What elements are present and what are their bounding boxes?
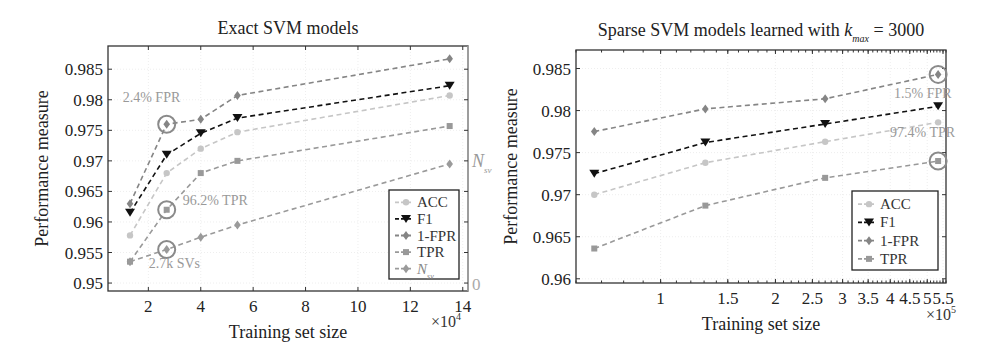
y-tick-label: 0.98: [541, 102, 571, 121]
series-line: [594, 74, 938, 131]
acc-marker: [446, 92, 452, 98]
legend-label: ACC: [417, 194, 448, 210]
series-line: [130, 59, 450, 204]
x-tick-label: 10: [349, 297, 366, 316]
fpr-marker: [702, 104, 709, 113]
x-tick-label: 1: [656, 289, 665, 308]
y-tick-label: 0.985: [65, 60, 103, 79]
annotation: 1.5% FPR: [894, 66, 952, 102]
x-tick-label: 3: [838, 289, 847, 308]
x-axis-label: Training set size: [702, 314, 820, 334]
fpr-marker: [163, 120, 170, 129]
y-tick-label: 0.98: [73, 91, 103, 110]
tpr-marker: [447, 123, 453, 129]
acc-marker: [198, 145, 204, 151]
f1-marker: [589, 170, 599, 178]
tpr-marker: [702, 203, 708, 209]
y-tick-label: 0.975: [533, 144, 571, 163]
f1-marker: [700, 139, 710, 147]
chart-canvas: 0.950.9550.960.9650.970.9750.980.9852468…: [0, 0, 988, 353]
x-tick-label: 2: [771, 289, 780, 308]
y-tick-label: 0.955: [65, 244, 103, 263]
secondary-y-label: Nsv: [471, 151, 492, 175]
fpr-marker: [234, 91, 241, 100]
x-axis-multiplier: ×104: [431, 311, 461, 330]
secondary-y-tick: 0: [472, 275, 481, 294]
y-tick-label: 0.97: [73, 152, 103, 171]
x-tick-label: 4: [886, 289, 895, 308]
tpr-marker: [164, 207, 170, 213]
legend: ACCF11-FPRTPRNsv: [389, 190, 459, 281]
acc-marker: [702, 160, 708, 166]
legend-tpr-marker: [866, 256, 872, 262]
series-fpr: [591, 70, 941, 136]
series-acc: [591, 119, 941, 198]
annotation-label: 2.4% FPR: [123, 90, 181, 105]
y-tick-label: 0.97: [541, 186, 571, 205]
legend-acc-marker: [866, 201, 872, 207]
x-tick-label: 12: [402, 297, 419, 316]
y-tick-label: 0.96: [73, 213, 103, 232]
acc-marker: [591, 191, 597, 197]
f1-marker: [125, 209, 135, 217]
legend-label: F1: [880, 214, 896, 230]
x-tick-label: 3.5: [858, 289, 879, 308]
fpr-marker: [197, 115, 204, 124]
y-tick-label: 0.965: [533, 228, 571, 247]
chart-title: Sparse SVM models learned with kmax = 30…: [598, 20, 924, 44]
legend: ACCF11-FPRTPR: [852, 191, 938, 270]
y-tick-label: 0.965: [65, 182, 103, 201]
chart-exact-svm: 0.950.9550.960.9650.970.9750.980.9852468…: [32, 18, 492, 342]
fpr-marker: [446, 54, 453, 63]
y-axis-label: Performance measure: [501, 88, 521, 244]
annotation: 2.7k SVs: [149, 241, 200, 271]
chart-title: Exact SVM models: [218, 18, 359, 38]
legend-label: 1-FPR: [880, 233, 919, 249]
legend-label: TPR: [880, 251, 908, 267]
y-tick-label: 0.975: [65, 121, 103, 140]
legend-label: 1-FPR: [417, 228, 456, 244]
chart-sparse-svm: 0.960.9650.970.9750.980.98511.522.533.54…: [501, 20, 956, 334]
annotation-label: 96.2% TPR: [183, 193, 249, 208]
figure: 0.950.9550.960.9650.970.9750.980.9852468…: [0, 0, 988, 353]
annotation-label: 97.4% TPR: [890, 125, 956, 140]
x-tick-label: 1.5: [717, 289, 738, 308]
tpr-marker: [198, 170, 204, 176]
legend-acc-marker: [403, 199, 409, 205]
legend-tpr-marker: [403, 249, 409, 255]
x-tick-label: 2: [144, 297, 153, 316]
x-tick-label: 6: [249, 297, 258, 316]
series-line: [594, 106, 938, 173]
x-tick-label: 4: [197, 297, 206, 316]
tpr-marker: [822, 175, 828, 181]
fpr-marker: [935, 70, 942, 79]
x-tick-label: 4.5: [899, 289, 920, 308]
x-axis-label: Training set size: [229, 322, 347, 342]
tpr-marker: [591, 246, 597, 252]
tpr-marker: [234, 158, 240, 164]
annotation: 2.4% FPR: [123, 90, 181, 133]
y-tick-label: 0.96: [541, 270, 571, 289]
nsv-marker: [234, 221, 241, 230]
acc-marker: [127, 232, 133, 238]
f1-marker: [933, 102, 943, 110]
annotation-label: 2.7k SVs: [149, 256, 200, 271]
legend-label: F1: [417, 211, 433, 227]
legend-label: TPR: [417, 244, 445, 260]
fpr-marker: [822, 94, 829, 103]
x-tick-label: 8: [301, 297, 310, 316]
acc-marker: [822, 138, 828, 144]
y-tick-label: 0.95: [73, 274, 103, 293]
series-fpr: [127, 54, 453, 208]
y-tick-label: 0.985: [533, 60, 571, 79]
x-axis-multiplier: ×105: [926, 304, 956, 323]
acc-marker: [234, 129, 240, 135]
y-axis-label: Performance measure: [32, 90, 52, 246]
tpr-marker: [935, 158, 941, 164]
fpr-marker: [591, 127, 598, 136]
acc-marker: [163, 170, 169, 176]
f1-marker: [162, 151, 172, 159]
annotation-label: 1.5% FPR: [894, 86, 952, 101]
legend-label: ACC: [880, 196, 911, 212]
x-tick-label: 2.5: [802, 289, 823, 308]
